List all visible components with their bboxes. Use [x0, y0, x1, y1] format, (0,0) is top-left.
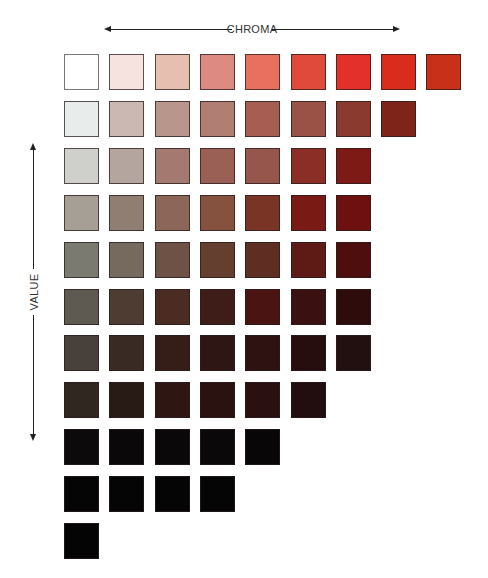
- color-chip: [200, 54, 235, 90]
- color-chip: [155, 289, 190, 325]
- color-chip: [336, 101, 371, 137]
- color-chip: [109, 335, 144, 371]
- color-chip: [336, 242, 371, 278]
- color-chip: [245, 54, 280, 90]
- color-chip: [336, 335, 371, 371]
- color-chip: [64, 523, 99, 559]
- color-chip: [336, 54, 371, 90]
- color-chip: [291, 54, 326, 90]
- color-chip: [291, 101, 326, 137]
- color-chip: [109, 101, 144, 137]
- color-chip: [291, 242, 326, 278]
- color-chip: [291, 335, 326, 371]
- color-chip: [109, 429, 144, 465]
- color-chip: [291, 289, 326, 325]
- color-chip: [155, 335, 190, 371]
- color-chip: [336, 148, 371, 184]
- color-chip: [381, 54, 416, 90]
- color-chip: [64, 476, 99, 512]
- color-chip: [109, 289, 144, 325]
- color-chip: [291, 195, 326, 231]
- color-chip: [336, 195, 371, 231]
- arrow-down-icon: [30, 434, 36, 441]
- color-chip: [155, 101, 190, 137]
- color-chip: [291, 382, 326, 418]
- color-chip: [64, 242, 99, 278]
- color-chip: [245, 101, 280, 137]
- color-chip: [200, 476, 235, 512]
- value-axis-line-top: [33, 149, 34, 269]
- value-axis: VALUE: [26, 143, 42, 441]
- color-chip: [381, 101, 416, 137]
- color-chip: [109, 476, 144, 512]
- color-chip: [109, 195, 144, 231]
- color-chip: [109, 148, 144, 184]
- color-chip: [200, 195, 235, 231]
- value-axis-label: VALUE: [28, 262, 40, 322]
- color-chip: [291, 148, 326, 184]
- color-chip: [245, 429, 280, 465]
- color-chip: [109, 54, 144, 90]
- color-chip: [155, 242, 190, 278]
- color-chip: [200, 148, 235, 184]
- color-chip: [245, 382, 280, 418]
- color-chip: [109, 242, 144, 278]
- color-chip: [200, 242, 235, 278]
- color-chip: [64, 335, 99, 371]
- color-chip: [155, 382, 190, 418]
- value-axis-line-bottom: [33, 315, 34, 435]
- color-chip: [64, 382, 99, 418]
- color-chip: [426, 54, 461, 90]
- color-chip: [64, 101, 99, 137]
- color-chip: [155, 195, 190, 231]
- color-chip: [200, 335, 235, 371]
- chroma-axis-line-right: [272, 29, 394, 30]
- color-chip: [200, 101, 235, 137]
- color-chip: [64, 289, 99, 325]
- color-chip: [64, 195, 99, 231]
- color-chip: [64, 148, 99, 184]
- arrow-right-icon: [393, 26, 400, 32]
- color-chip: [200, 429, 235, 465]
- color-chip: [245, 148, 280, 184]
- color-chip: [64, 54, 99, 90]
- color-chip: [336, 289, 371, 325]
- color-chip: [245, 289, 280, 325]
- chroma-axis: CHROMA: [104, 22, 400, 38]
- color-chip: [155, 429, 190, 465]
- color-chip: [64, 429, 99, 465]
- color-chip: [245, 242, 280, 278]
- color-chip: [155, 476, 190, 512]
- color-chip: [200, 382, 235, 418]
- color-chip: [109, 382, 144, 418]
- color-chip: [245, 335, 280, 371]
- color-chip: [155, 54, 190, 90]
- color-chip: [155, 148, 190, 184]
- color-chip: [245, 195, 280, 231]
- color-chip: [200, 289, 235, 325]
